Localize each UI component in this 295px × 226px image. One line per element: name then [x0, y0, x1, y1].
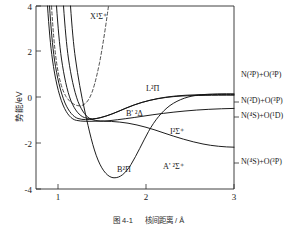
dissociation-limit-ticks	[234, 102, 239, 163]
annotation-b-pi: B²Π	[117, 165, 131, 174]
figure-caption-xlabel: 核间距离 / Å	[145, 214, 184, 225]
y-tick-group: 4 2 0 -2 -4	[25, 2, 42, 195]
y-tick-label-0: 0	[28, 93, 33, 103]
annotation-x-sigma: X¹Σ⁺	[90, 11, 107, 21]
dissociation-limit-label-3: N(⁴S)+O(¹D)	[241, 111, 283, 120]
curve-group	[48, 6, 235, 178]
dissociation-limit-label-1: N(²P)+O(³P)	[241, 70, 281, 79]
x-tick-group: 1 2 3	[56, 184, 237, 202]
y-tick-label-minus4: -4	[25, 185, 33, 195]
x-tick-label-2: 2	[144, 192, 149, 202]
curve-a-prime-sigma	[48, 6, 235, 147]
dissociation-limit-label-2: N(²D)+O(³P)	[241, 96, 283, 105]
y-tick-label-minus2: -2	[25, 139, 33, 149]
potential-energy-curve-figure: 4 2 0 -2 -4 1 2 3	[0, 0, 295, 226]
y-tick-label-2: 2	[28, 47, 33, 57]
y-tick-label-4: 4	[28, 2, 33, 12]
x-tick-label-3: 3	[232, 192, 237, 202]
annotation-a-prime-sigma: A' ²Σ⁺	[163, 161, 184, 171]
annotation-b-prime-delta: B' ²Δ	[126, 109, 143, 118]
annotation-i-sigma: I²Σ⁺	[170, 126, 184, 136]
curve-i-sigma	[64, 6, 235, 121]
dissociation-limit-label-4: N(⁴S)+O(³P)	[241, 157, 282, 166]
y-axis-title: 势能/eV	[12, 91, 24, 122]
figure-caption-number: 图 4-1	[113, 214, 133, 225]
x-tick-label-1: 1	[56, 192, 61, 202]
annotation-l-pi: L²Π	[146, 84, 159, 93]
